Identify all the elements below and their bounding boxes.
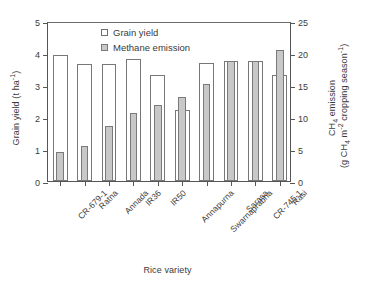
y-axis-left-title-tail: ) [11,71,21,74]
y-axis-right-title-ch: CH [327,123,337,136]
bar-methane-emission [130,113,138,181]
bar-methane-emission [252,61,260,181]
y-axis-right-tick [290,119,295,120]
y-axis-left-tick [43,151,48,152]
x-axis-tick [158,181,159,186]
bar-group [224,23,239,181]
y-axis-right-tick [290,55,295,56]
bar-methane-emission [154,105,162,181]
y-axis-right-title-emission: emission [327,80,337,119]
x-axis-label: Annapurna [199,188,235,224]
y-axis-right-units-b: m [339,130,349,140]
y-axis-left-title-exponent: -1 [9,74,16,80]
y-axis-right-units-exp2: -1 [337,47,344,53]
y-axis-right-units-d: ) [339,44,349,47]
y-axis-left-tick-label: 1 [35,146,40,156]
x-axis-tick [280,181,281,186]
y-axis-right-tick-label: 10 [298,114,308,124]
x-axis-tick [60,181,61,186]
y-axis-left-title-text: Grain yield (t ha [11,80,21,145]
x-axis-tick [85,181,86,186]
chart-figure: Grain yield (t ha-1) CH4 emission (g CH4… [0,0,369,288]
bar-group [272,23,287,181]
legend-item: Grain yield [101,27,190,38]
x-axis-tick [133,181,134,186]
y-axis-right-tick-label: 5 [298,146,303,156]
chart-legend: Grain yieldMethane emission [101,27,190,57]
bar-methane-emission [203,84,211,181]
legend-label: Methane emission [113,42,190,53]
y-axis-right-title-line2: (g CH4 m-2 cropping season-1) [339,48,349,168]
y-axis-right-tick [290,23,295,24]
y-axis-right-tick [290,151,295,152]
bar-methane-emission [81,146,89,181]
bar-methane-emission [227,61,235,181]
y-axis-left-tick-label: 0 [35,178,40,188]
x-axis-tick [109,181,110,186]
y-axis-right-units-a: (g CH [339,144,349,168]
y-axis-right-title-line1: CH4 emission [327,48,337,168]
bar-methane-emission [178,97,186,181]
x-axis-tick [255,181,256,186]
bar-group [248,23,263,181]
y-axis-left-tick [43,87,48,88]
legend-item: Methane emission [101,42,190,53]
legend-label: Grain yield [113,27,158,38]
bar-group [199,23,214,181]
bar-group [53,23,68,181]
y-axis-right-tick-label: 15 [298,82,308,92]
bar-methane-emission [56,152,64,181]
x-axis-label: IR50 [168,188,188,208]
y-axis-right-units-exp1: -2 [337,123,344,129]
y-axis-left-tick-label: 5 [35,18,40,28]
y-axis-right-tick [290,87,295,88]
x-axis-title: Rice variety [45,265,290,275]
legend-swatch-icon [101,29,108,36]
bar-methane-emission [276,50,284,181]
y-axis-right-units-c: cropping season [339,53,349,123]
y-axis-left-tick [43,183,48,184]
y-axis-left-tick-label: 3 [35,82,40,92]
y-axis-right-tick-label: 0 [298,178,303,188]
y-axis-left-tick [43,23,48,24]
y-axis-right-tick [290,183,295,184]
y-axis-left-tick [43,55,48,56]
bar-methane-emission [105,126,113,181]
y-axis-right-units-sub: 4 [344,140,351,144]
bar-group [77,23,92,181]
y-axis-left-tick-label: 4 [35,50,40,60]
legend-swatch-icon [101,44,108,51]
x-axis-tick [207,181,208,186]
y-axis-left-tick [43,119,48,120]
y-axis-left-title: Grain yield (t ha-1) [11,48,21,168]
y-axis-right-tick-label: 25 [298,18,308,28]
x-axis-tick [231,181,232,186]
x-axis-tick [182,181,183,186]
y-axis-left-tick-label: 2 [35,114,40,124]
y-axis-right-tick-label: 20 [298,50,308,60]
